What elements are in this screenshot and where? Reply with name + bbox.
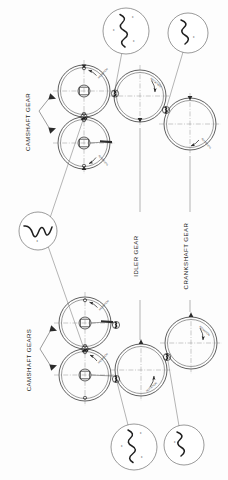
gear-upper-camshaft-b: ROTATION — [53, 112, 115, 174]
label-idler-gear: IDLER GEAR — [132, 235, 139, 277]
detail-bubble-upper-cam-to-idler: x x x — [103, 8, 149, 54]
detail-bubble-lower-idler-to-crank: x — [164, 425, 204, 465]
label-leaders-lower — [40, 325, 57, 371]
label-camshaft-gear: CAMSHAFT GEAR — [24, 93, 31, 151]
mesh-markers-upper — [81, 90, 170, 120]
rotation-note-upper-cam-b: ROTATION — [97, 154, 109, 167]
gear-upper-idler: ROTATION — [109, 65, 171, 127]
rotation-note-upper-cam-a: ROTATION — [97, 67, 109, 80]
detail-bubble-lower-cam-to-idler: x x x — [111, 424, 157, 470]
label-camshaft-gears: CAMSHAFT GEARS — [25, 329, 32, 392]
label-crankshaft-gear: CRANKSHAFT GEAR — [182, 222, 189, 289]
detail-bubble-upper-idler-to-crank: x — [168, 13, 208, 53]
rotation-note-lower-cam-a: ROTATION — [98, 299, 110, 312]
diagram-page: ROTATION ROTATION ROTATION — [0, 0, 228, 480]
timing-gear-train-diagram: ROTATION ROTATION ROTATION — [0, 0, 228, 480]
rotation-note-upper-crank: ROTATION — [200, 137, 212, 150]
gear-lower-crankshaft: ROTATION — [160, 312, 222, 374]
label-leaders-upper — [39, 93, 56, 134]
rotation-note-lower-crank: ROTATION — [198, 325, 211, 337]
rotation-note-lower-cam-b: ROTATION — [97, 352, 109, 365]
gear-lower-camshaft-b: ROTATION — [54, 344, 116, 406]
detail-bubble-cam-to-cam: x — [19, 212, 57, 250]
